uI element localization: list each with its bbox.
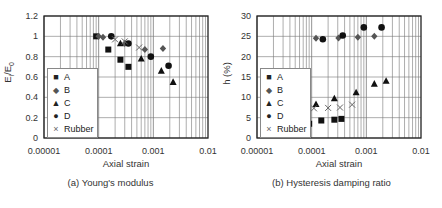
y-tick-label: 0.6	[25, 72, 38, 82]
plot-area-youngs-modulus: 00.20.40.60.811.20.000010.00010.0010.01	[0, 0, 221, 160]
data-point-d	[378, 24, 385, 31]
data-point-a	[105, 47, 111, 53]
legend-item-rubber: ×Rubber	[51, 123, 94, 136]
y-tick-label: 25	[241, 31, 251, 41]
data-point-a	[125, 64, 131, 70]
legend-label: A	[64, 72, 70, 82]
data-point-b	[160, 45, 166, 52]
y-tick-label: 0.8	[25, 52, 38, 62]
y-tick-label: 20	[241, 52, 251, 62]
square-marker-icon: ■	[51, 71, 61, 84]
data-point-c	[383, 77, 390, 84]
data-point-c	[158, 67, 165, 74]
data-point-d	[165, 63, 172, 70]
y-tick-label: 1.2	[25, 11, 38, 21]
legend-label: C	[277, 98, 284, 108]
data-point-c	[138, 55, 145, 62]
chart-panel-youngs-modulus: 00.20.40.60.811.20.000010.00010.0010.01 …	[0, 0, 221, 208]
legend-item-b: ◆B	[51, 84, 94, 97]
legend-label: B	[277, 85, 283, 95]
x-tick-label: 0.0001	[298, 146, 326, 156]
y-tick-label: 0.2	[25, 113, 38, 123]
legend-label: B	[64, 85, 70, 95]
data-point-d	[339, 32, 346, 39]
data-point-b	[355, 34, 361, 41]
data-point-d	[320, 36, 327, 43]
data-point-a	[338, 116, 344, 122]
data-point-d	[108, 33, 115, 40]
data-point-c	[331, 95, 338, 102]
legend-item-b: ◆B	[264, 84, 307, 97]
x-marker-icon: ×	[264, 123, 274, 136]
legend-item-c: ▲C	[264, 97, 307, 110]
x-marker-icon: ×	[51, 123, 61, 136]
data-point-d	[148, 53, 155, 60]
data-point-a	[331, 117, 337, 123]
data-point-a	[117, 57, 123, 63]
y-tick-label: 30	[241, 11, 251, 21]
y-tick-label: 5	[246, 113, 251, 123]
legend-label: Rubber	[64, 124, 94, 134]
x-tick-label: 0.00001	[241, 146, 274, 156]
x-tick-label: 0.001	[142, 146, 165, 156]
legend-item-d: ●D	[264, 110, 307, 123]
legend: ■A◆B▲C●D×Rubber	[47, 68, 98, 138]
chart-caption: (a) Young's modulus	[0, 177, 221, 188]
plot-area-damping-ratio: 0510152025300.000010.00010.0010.01	[221, 0, 442, 160]
square-marker-icon: ■	[264, 71, 274, 84]
x-tick-label: 0.001	[355, 146, 378, 156]
legend-label: C	[64, 98, 71, 108]
legend-item-a: ■A	[51, 71, 94, 84]
data-point-a	[318, 118, 324, 124]
x-axis-label: Axial strain	[257, 158, 421, 169]
circle-marker-icon: ●	[264, 110, 274, 123]
circle-marker-icon: ●	[51, 110, 61, 123]
x-tick-label: 0.01	[412, 146, 430, 156]
x-axis-label: Axial strain	[44, 158, 208, 169]
legend-label: Rubber	[277, 124, 307, 134]
y-tick-label: 0	[33, 133, 38, 143]
diamond-marker-icon: ◆	[51, 84, 61, 97]
data-point-b	[100, 34, 106, 41]
data-point-d	[361, 24, 368, 31]
legend-item-rubber: ×Rubber	[264, 123, 307, 136]
legend: ■A◆B▲C●D×Rubber	[260, 68, 311, 138]
y-tick-label: 0.4	[25, 92, 38, 102]
chart-caption: (b) Hysteresis damping ratio	[221, 177, 442, 188]
y-tick-label: 10	[241, 92, 251, 102]
data-point-c	[371, 80, 378, 87]
y-tick-label: 1	[33, 31, 38, 41]
y-tick-label: 15	[241, 72, 251, 82]
data-point-c	[170, 78, 177, 85]
data-point-b	[371, 33, 377, 40]
y-axis-label: h (%)	[221, 62, 232, 85]
legend-label: A	[277, 72, 283, 82]
triangle-marker-icon: ▲	[264, 97, 274, 110]
data-point-b	[313, 35, 319, 42]
triangle-marker-icon: ▲	[51, 97, 61, 110]
data-point-b	[142, 46, 148, 53]
x-tick-label: 0.0001	[85, 146, 113, 156]
legend-label: D	[64, 111, 71, 121]
data-point-c	[353, 89, 360, 96]
x-tick-label: 0.01	[199, 146, 217, 156]
legend-item-c: ▲C	[51, 97, 94, 110]
x-tick-label: 0.00001	[28, 146, 61, 156]
y-tick-label: 0	[246, 133, 251, 143]
y-axis-label: Ei/E0	[2, 62, 15, 83]
chart-panel-damping-ratio: 0510152025300.000010.00010.0010.01 h (%)…	[221, 0, 442, 208]
legend-item-d: ●D	[51, 110, 94, 123]
diamond-marker-icon: ◆	[264, 84, 274, 97]
legend-item-a: ■A	[264, 71, 307, 84]
legend-label: D	[277, 111, 284, 121]
